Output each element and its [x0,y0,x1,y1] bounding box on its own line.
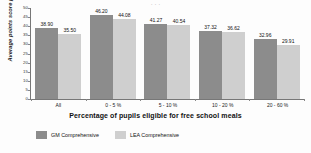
y-tick-mark [28,90,30,91]
bar-slot: 44.08 [113,8,136,99]
bar-slot: 38.90 [35,8,58,99]
y-tick-mark [28,81,30,82]
legend-swatch-gm [36,131,47,139]
bar-value-label: 37.32 [204,25,217,30]
bar-value-label: 44.08 [118,13,131,18]
legend-item[interactable]: LEA Comprehensive [115,131,179,139]
y-tick-mark [28,44,30,45]
bar-slot: 32.96 [254,8,277,99]
y-tick-mark [28,17,30,18]
bar-value-label: 46.20 [95,9,108,14]
bar[interactable]: 44.08 [113,19,136,99]
bar-chart: · · · Average points score per pupil 504… [0,0,311,153]
bar-group: 41.2740.54 [140,8,195,99]
plot-area: 50454035302520151050 38.9035.5046.2044.0… [30,8,304,100]
bar-slot: 37.32 [199,8,222,99]
bar-slot: 29.91 [277,8,300,99]
legend-swatch-lea [115,131,126,139]
bar-value-label: 36.62 [227,26,240,31]
y-tick-mark [28,35,30,36]
bar[interactable]: 32.96 [254,39,277,99]
chart-title-cutoff: · · · [0,0,311,5]
bar-group: 32.9629.91 [249,8,304,99]
x-axis-line [30,99,304,100]
chart-legend: GM ComprehensiveLEA Comprehensive [36,131,179,139]
bar-value-label: 38.90 [41,22,54,27]
bar-slot: 35.50 [58,8,81,99]
bar-slot: 41.27 [144,8,167,99]
bar-value-label: 35.50 [64,28,77,33]
x-category-label: All [31,101,86,110]
x-axis-title: Percentage of pupils eligible for free s… [0,112,311,119]
bar[interactable]: 36.62 [222,32,245,99]
x-axis-category-labels: All0 - 5 %5 - 10 %10 - 20 %20 - 60 % [31,101,305,110]
bar-slot: 46.20 [90,8,113,99]
x-category-label: 10 - 20 % [195,101,250,110]
bar-group: 37.3236.62 [195,8,250,99]
bar-groups: 38.9035.5046.2044.0841.2740.5437.3236.62… [31,8,304,99]
legend-item[interactable]: GM Comprehensive [36,131,99,139]
bar-group: 38.9035.50 [31,8,86,99]
y-axis-title: Average points score per pupil [5,0,15,67]
bar-value-label: 32.96 [259,33,272,38]
bar-slot: 40.54 [167,8,190,99]
y-tick-mark [28,8,30,9]
bar[interactable]: 46.20 [90,15,113,99]
y-tick-mark [28,72,30,73]
legend-label: LEA Comprehensive [130,131,179,139]
bar-group: 46.2044.08 [86,8,141,99]
x-category-label: 0 - 5 % [86,101,141,110]
bar-value-label: 40.54 [173,19,186,24]
bar[interactable]: 40.54 [167,25,190,99]
legend-label: GM Comprehensive [51,131,99,139]
x-category-label: 20 - 60 % [250,101,305,110]
bar-slot: 36.62 [222,8,245,99]
bar[interactable]: 41.27 [144,24,167,99]
bar[interactable]: 35.50 [58,34,81,99]
x-category-label: 5 - 10 % [141,101,196,110]
bar-value-label: 41.27 [150,18,163,23]
y-tick-mark [28,26,30,27]
bar-value-label: 29.91 [282,39,295,44]
bar[interactable]: 29.91 [277,45,300,99]
y-tick-mark [28,99,30,100]
y-tick-mark [28,63,30,64]
bar[interactable]: 38.90 [35,28,58,99]
y-tick-mark [28,54,30,55]
bar[interactable]: 37.32 [199,31,222,99]
